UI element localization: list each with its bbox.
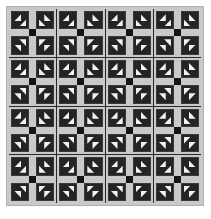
flying-geese-triangle — [87, 186, 94, 193]
quilt-block-r3-c3 — [106, 107, 153, 155]
quilt-quadrant-bottom-right — [36, 134, 54, 152]
quilt-quadrant-bottom-right — [133, 36, 151, 54]
block-sashing-horizontal — [133, 29, 151, 36]
quilt-quadrant-top-left — [108, 109, 126, 127]
flying-geese-triangle — [184, 20, 191, 27]
block-sashing-horizontal — [108, 29, 126, 36]
block-sashing-horizontal — [133, 176, 151, 183]
flying-geese-triangle — [184, 186, 191, 193]
flying-geese-triangle — [116, 39, 123, 46]
quilt-quadrant-top-left — [156, 157, 174, 175]
quilt-quadrant-top-right — [84, 11, 102, 29]
flying-geese-triangle — [19, 137, 26, 144]
flying-geese-triangle — [116, 166, 123, 173]
block-sashing-horizontal — [59, 176, 77, 183]
quilt-quadrant-bottom-left — [11, 183, 29, 201]
quilt-quadrant-bottom-right — [84, 183, 102, 201]
quilt-quadrant-bottom-right — [181, 183, 199, 201]
block-sashing-horizontal — [108, 127, 126, 134]
quilt-quadrant-bottom-right — [36, 85, 54, 103]
quilt-quadrant-top-left — [156, 109, 174, 127]
block-sashing-vertical — [126, 134, 133, 152]
flying-geese-triangle — [87, 20, 94, 27]
quilt-quadrant-bottom-left — [11, 134, 29, 152]
flying-geese-triangle — [116, 68, 123, 75]
flying-geese-triangle — [68, 88, 75, 95]
flying-geese-triangle — [136, 137, 143, 144]
quilt-quadrant-top-left — [108, 157, 126, 175]
block-sashing-vertical — [29, 109, 36, 127]
quilt-quadrant-bottom-left — [156, 85, 174, 103]
flying-geese-triangle — [19, 39, 26, 46]
flying-geese-triangle — [87, 88, 94, 95]
flying-geese-triangle — [19, 88, 26, 95]
block-sashing-horizontal — [11, 78, 29, 85]
quilt-quadrant-top-right — [36, 157, 54, 175]
flying-geese-triangle — [68, 39, 75, 46]
block-sashing-vertical — [174, 109, 181, 127]
block-sashing-vertical — [77, 183, 84, 201]
block-sashing-horizontal — [156, 78, 174, 85]
flying-geese-triangle — [39, 39, 46, 46]
quilt-quadrant-bottom-right — [36, 36, 54, 54]
quilt-quadrant-bottom-right — [181, 36, 199, 54]
block-center-square — [126, 29, 133, 36]
quilt-quadrant-bottom-left — [108, 36, 126, 54]
quilt-quadrant-bottom-left — [11, 85, 29, 103]
block-sashing-vertical — [174, 85, 181, 103]
flying-geese-triangle — [184, 117, 191, 124]
block-sashing-horizontal — [133, 127, 151, 134]
quilt-quadrant-top-right — [181, 157, 199, 175]
block-sashing-horizontal — [11, 29, 29, 36]
quilt-block-r3-c4 — [154, 107, 201, 155]
block-sashing-horizontal — [156, 29, 174, 36]
flying-geese-triangle — [136, 20, 143, 27]
block-sashing-horizontal — [156, 127, 174, 134]
flying-geese-triangle — [164, 166, 171, 173]
quilt-quadrant-top-left — [59, 11, 77, 29]
quilt-quadrant-bottom-right — [84, 36, 102, 54]
block-sashing-vertical — [77, 134, 84, 152]
quilt-quadrant-top-right — [133, 109, 151, 127]
quilt-quadrant-bottom-left — [156, 134, 174, 152]
block-sashing-vertical — [77, 109, 84, 127]
quilt-quadrant-bottom-right — [84, 85, 102, 103]
quilt-outer-border — [6, 6, 204, 206]
quilt-block-r2-c2 — [57, 58, 104, 106]
block-sashing-vertical — [174, 60, 181, 78]
flying-geese-triangle — [164, 137, 171, 144]
flying-geese-triangle — [19, 117, 26, 124]
quilt-block-r4-c2 — [57, 155, 104, 203]
block-sashing-vertical — [174, 11, 181, 29]
flying-geese-triangle — [68, 186, 75, 193]
block-sashing-horizontal — [36, 29, 54, 36]
quilt-block-r2-c4 — [154, 58, 201, 106]
block-sashing-horizontal — [59, 29, 77, 36]
block-sashing-horizontal — [181, 29, 199, 36]
flying-geese-triangle — [164, 117, 171, 124]
flying-geese-triangle — [19, 166, 26, 173]
quilt-quadrant-top-left — [108, 60, 126, 78]
flying-geese-triangle — [184, 166, 191, 173]
quilt-quadrant-top-left — [11, 60, 29, 78]
block-sashing-vertical — [29, 134, 36, 152]
flying-geese-triangle — [19, 68, 26, 75]
flying-geese-triangle — [164, 68, 171, 75]
block-sashing-vertical — [126, 183, 133, 201]
flying-geese-triangle — [136, 186, 143, 193]
block-sashing-horizontal — [11, 127, 29, 134]
quilt-quadrant-top-left — [11, 11, 29, 29]
quilt-quadrant-bottom-left — [59, 85, 77, 103]
block-center-square — [29, 29, 36, 36]
flying-geese-triangle — [164, 20, 171, 27]
quilt-quadrant-top-left — [11, 157, 29, 175]
block-center-square — [77, 78, 84, 85]
quilt-quadrant-bottom-right — [181, 85, 199, 103]
quilt-block-r1-c1 — [9, 9, 56, 57]
quilt-image — [0, 0, 211, 219]
block-center-square — [126, 127, 133, 134]
block-sashing-vertical — [126, 157, 133, 175]
block-sashing-vertical — [174, 134, 181, 152]
quilt-quadrant-top-left — [11, 109, 29, 127]
flying-geese-triangle — [68, 137, 75, 144]
